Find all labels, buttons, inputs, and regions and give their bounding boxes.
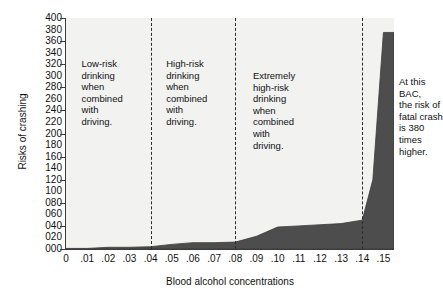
x-tick-label: .15 (376, 253, 390, 264)
y-tick-label: 260 (45, 94, 62, 104)
y-tick-mark (60, 180, 65, 181)
y-tick-label: 220 (45, 117, 62, 127)
x-tick-label: .10 (271, 253, 285, 264)
bac-callout-annotation: At this BAC, the risk of fatal crash is … (399, 76, 443, 157)
band-caption-extreme-risk: Extremely high-risk drinking when combin… (253, 70, 295, 151)
x-tick-label: .09 (249, 253, 263, 264)
y-tick-mark (60, 18, 65, 19)
x-tick-label: .04 (144, 253, 158, 264)
y-tick-mark (60, 249, 65, 250)
y-axis-title: Risks of crashing (17, 67, 28, 197)
x-tick-label: 0 (63, 253, 69, 264)
x-tick-label: .03 (123, 253, 137, 264)
x-tick-label: .11 (292, 253, 305, 264)
y-tick-mark (60, 157, 65, 158)
x-axis-line (65, 249, 394, 250)
x-axis-title: Blood alcohol concentrations (66, 276, 394, 287)
y-tick-mark (60, 203, 65, 204)
x-tick-label: .13 (334, 253, 348, 264)
risk-area-series (66, 18, 394, 249)
x-tick-label: .14 (355, 253, 369, 264)
risk-band-divider (362, 18, 363, 249)
y-tick-mark (60, 110, 65, 111)
y-tick-label: 020 (45, 232, 62, 242)
x-tick-label: .08 (228, 253, 242, 264)
y-tick-label: 100 (45, 186, 62, 196)
x-tick-label: .05 (165, 253, 179, 264)
risk-band-divider (151, 18, 152, 249)
plot-area: Low-risk drinking when combined with dri… (66, 18, 394, 249)
y-tick-mark (60, 64, 65, 65)
y-tick-label: 380 (45, 25, 62, 35)
x-tick-label: .12 (313, 253, 327, 264)
y-tick-mark (60, 87, 65, 88)
risk-band-divider (235, 18, 236, 249)
x-tick-label: .01 (80, 253, 94, 264)
y-tick-label: 340 (45, 48, 62, 58)
x-axis-tick-labels: 0.01.02.03.04.05.06.07.08.09.10.11.12.13… (0, 253, 442, 269)
band-caption-low-risk: Low-risk drinking when combined with dri… (82, 58, 123, 128)
x-tick-label: .02 (101, 253, 115, 264)
y-tick-mark (60, 41, 65, 42)
x-tick-label: .07 (207, 253, 221, 264)
y-tick-label: 180 (45, 140, 62, 150)
y-tick-mark (60, 134, 65, 135)
y-tick-mark (60, 226, 65, 227)
x-tick-label: .06 (186, 253, 200, 264)
y-tick-label: 060 (45, 209, 62, 219)
band-caption-high-risk: High-risk drinking when combined with dr… (166, 58, 207, 128)
y-tick-label: 140 (45, 163, 62, 173)
y-tick-label: 300 (45, 71, 62, 81)
